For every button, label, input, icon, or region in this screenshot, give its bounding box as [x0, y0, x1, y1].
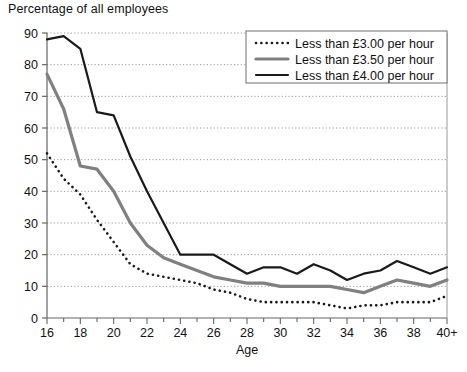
- x-tick-label: 16: [40, 326, 54, 340]
- y-tick-label: 0: [31, 312, 38, 326]
- bottom-caption-strip: [0, 362, 467, 372]
- x-tick-label: 30: [273, 326, 287, 340]
- x-tick-labels-group: 16182022242628303234363840+: [40, 318, 458, 340]
- y-tick-labels-group: 0102030405060708090: [24, 27, 47, 326]
- line-chart: 0102030405060708090 16182022242628303234…: [0, 0, 467, 372]
- y-tick-label: 50: [24, 153, 38, 167]
- x-tick-label: 26: [207, 326, 221, 340]
- legend-item-label: Less than £3.00 per hour: [295, 37, 434, 51]
- x-axis-title: Age: [236, 343, 258, 357]
- x-tick-label: 38: [407, 326, 421, 340]
- y-tick-label: 30: [24, 217, 38, 231]
- x-tick-label: 28: [240, 326, 254, 340]
- y-tick-label: 80: [24, 58, 38, 72]
- y-tick-label: 70: [24, 90, 38, 104]
- y-tick-label: 20: [24, 248, 38, 262]
- x-tick-label: 18: [73, 326, 87, 340]
- x-tick-label: 40+: [436, 326, 457, 340]
- legend-item-label: Less than £4.00 per hour: [295, 69, 434, 83]
- y-tick-label: 60: [24, 122, 38, 136]
- y-tick-label: 40: [24, 185, 38, 199]
- chart-container: Percentage of all employees 010203040506…: [0, 0, 467, 372]
- x-tick-label: 24: [173, 326, 187, 340]
- legend-item-label: Less than £3.50 per hour: [295, 53, 434, 67]
- y-tick-label: 10: [24, 280, 38, 294]
- legend: Less than £3.00 per hourLess than £3.50 …: [246, 31, 447, 83]
- x-tick-label: 22: [140, 326, 154, 340]
- x-tick-label: 32: [307, 326, 321, 340]
- series-line: [47, 74, 447, 293]
- x-tick-label: 36: [373, 326, 387, 340]
- y-tick-label: 90: [24, 27, 38, 41]
- x-tick-label: 20: [107, 326, 121, 340]
- x-tick-label: 34: [340, 326, 354, 340]
